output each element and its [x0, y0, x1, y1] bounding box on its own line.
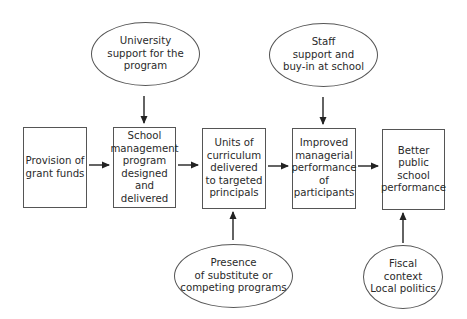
box-label: School management program designed and d…	[110, 130, 178, 205]
box-label: Provision of grant funds	[26, 155, 85, 180]
box-better-public-school-performance: Better public school performance	[382, 129, 445, 210]
box-label: Units of curriculum delivered to targete…	[205, 137, 262, 200]
ellipse-label: Staff support and buy-in at school	[283, 36, 364, 74]
ellipse-label: University support for the program	[107, 35, 183, 73]
ellipse-label: Presence of substitute or competing prog…	[180, 257, 286, 295]
box-improved-managerial-performance: Improved managerial performance of parti…	[292, 128, 356, 209]
box-school-management-program: School management program designed and d…	[113, 127, 176, 208]
ellipse-university-support: University support for the program	[91, 22, 200, 86]
box-label: Improved managerial performance of parti…	[291, 137, 356, 200]
box-provision-of-grant-funds: Provision of grant funds	[23, 127, 87, 208]
box-units-of-curriculum: Units of curriculum delivered to targete…	[202, 128, 266, 209]
ellipse-substitute-programs: Presence of substitute or competing prog…	[174, 244, 293, 308]
box-label: Better public school performance	[381, 145, 446, 195]
ellipse-fiscal-context: Fiscal context Local politics	[363, 245, 443, 309]
ellipse-staff-support: Staff support and buy-in at school	[269, 23, 378, 87]
ellipse-label: Fiscal context Local politics	[370, 258, 436, 296]
